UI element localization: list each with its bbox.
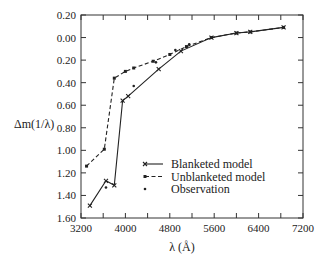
square-marker — [132, 67, 135, 70]
y-tick-label: 0.40 — [57, 77, 77, 89]
square-marker — [185, 45, 188, 48]
dot-marker — [174, 49, 177, 52]
x-axis-title: λ (Å) — [169, 240, 194, 254]
chart: 3200400048005600640072000.200.000.200.40… — [0, 0, 322, 265]
square-marker — [103, 148, 106, 151]
square-marker — [152, 60, 155, 63]
x-marker — [126, 94, 130, 98]
square-marker — [235, 32, 238, 35]
square-marker — [124, 70, 127, 73]
series-line — [87, 27, 284, 166]
x-tick-label: 4800 — [159, 222, 182, 234]
square-marker — [113, 77, 116, 80]
x-marker — [157, 67, 161, 71]
x-tick-label: 7200 — [292, 222, 315, 234]
y-tick-label: 0.00 — [57, 32, 77, 44]
x-marker — [104, 179, 108, 183]
legend: Blanketed modelUnblanketed modelObservat… — [143, 157, 266, 196]
square-marker — [282, 26, 285, 29]
y-tick-label: 1.40 — [57, 189, 77, 201]
y-tick-label: 1.00 — [57, 144, 77, 156]
x-tick-label: 5600 — [203, 222, 226, 234]
legend-label: Observation — [171, 182, 230, 196]
square-marker — [249, 30, 252, 33]
x-marker — [179, 49, 183, 53]
series-unblanketed-model — [85, 26, 285, 168]
square-marker — [85, 165, 88, 168]
y-axis-title: Δm(1/λ) — [14, 117, 54, 131]
dot-marker — [105, 186, 108, 189]
y-tick-label: 0.20 — [57, 9, 77, 21]
dot-marker — [132, 85, 135, 88]
x-tick-label: 4000 — [114, 222, 137, 234]
dot-marker — [155, 61, 158, 64]
y-tick-label: 1.20 — [57, 167, 77, 179]
x-tick-label: 6400 — [248, 222, 271, 234]
axes: 3200400048005600640072000.200.000.200.40… — [57, 9, 315, 234]
square-marker — [168, 53, 171, 56]
square-marker — [210, 36, 213, 39]
x-marker — [88, 204, 92, 208]
y-tick-label: 0.20 — [57, 54, 77, 66]
y-tick-label: 1.60 — [57, 212, 77, 224]
y-tick-label: 0.80 — [57, 122, 77, 134]
square-marker — [144, 175, 147, 178]
dot-marker — [188, 43, 191, 46]
y-tick-label: 0.60 — [57, 99, 77, 111]
dot-marker — [144, 188, 147, 191]
